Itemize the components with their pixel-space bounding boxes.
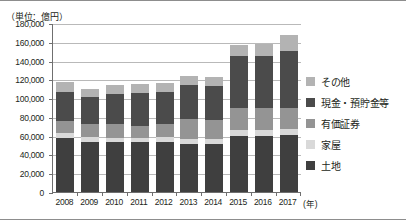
legend-swatch-icon — [306, 77, 315, 86]
bar-segment — [156, 124, 174, 137]
legend-label: 家屋 — [321, 137, 340, 152]
legend-item: 現金・預貯金等 — [306, 92, 404, 113]
y-axis-tick-label: 40,000 — [20, 150, 44, 160]
y-axis-tick-label: 140,000 — [15, 57, 44, 67]
bar-segment — [255, 136, 273, 192]
bar-segment — [106, 85, 124, 94]
x-axis-tick — [201, 192, 202, 196]
legend-label: 土地 — [321, 158, 340, 173]
bar-segment — [280, 51, 298, 107]
bar-segment — [81, 142, 99, 192]
x-axis-tick-label: 2010 — [102, 197, 127, 207]
x-axis-tick-label: 2017 — [275, 197, 300, 207]
bar-segment — [106, 142, 124, 192]
bar-segment — [255, 44, 273, 56]
bar-group — [251, 24, 276, 192]
bar-group — [177, 24, 202, 192]
bar-segment — [280, 135, 298, 192]
bar-segment — [230, 136, 248, 192]
x-axis-tick — [251, 192, 252, 196]
x-axis-tick — [152, 192, 153, 196]
y-axis-tick-label: 20,000 — [20, 169, 44, 179]
chart-frame: （単位：億円） 020,00040,00060,00080,000100,000… — [0, 0, 406, 220]
bar-segment — [156, 142, 174, 192]
x-axis-tick-label: 2011 — [126, 197, 151, 207]
x-axis-tick-label: 2013 — [176, 197, 201, 207]
y-axis-tick-label: 180,000 — [15, 19, 44, 29]
bar-group — [227, 24, 252, 192]
bar-group — [276, 24, 301, 192]
legend-item: その他 — [306, 71, 404, 92]
stacked-bar — [180, 76, 198, 192]
stacked-bar — [106, 85, 124, 192]
legend-item: 家屋 — [306, 134, 404, 155]
x-axis-tick-label: 2015 — [226, 197, 251, 207]
x-axis-tick-labels: 2008200920102011201220132014201520162017 — [52, 197, 310, 213]
bar-segment — [131, 126, 149, 138]
bar-segment — [56, 138, 74, 192]
bar-segment — [56, 121, 74, 133]
bar-segment — [205, 86, 223, 119]
bar-segment — [205, 77, 223, 86]
bar-group — [127, 24, 152, 192]
x-axis-tick — [226, 192, 227, 196]
bar-segment — [180, 119, 198, 138]
stacked-bar — [280, 35, 298, 192]
y-axis-tick-labels: 020,00040,00060,00080,000100,000120,0001… — [0, 24, 50, 193]
bar-segment — [230, 45, 248, 57]
legend-swatch-icon — [306, 161, 315, 170]
bar-segment — [56, 82, 74, 92]
chart-legend: その他現金・預貯金等有価証券家屋土地 — [306, 71, 404, 176]
y-axis-tick-label: 80,000 — [20, 113, 44, 123]
bar-segment — [280, 108, 298, 130]
stacked-bar — [56, 82, 74, 192]
bar-segment — [180, 76, 198, 86]
stacked-bar — [205, 77, 223, 192]
bar-group — [152, 24, 177, 192]
x-axis-tick — [176, 192, 177, 196]
y-axis-tick-label: 100,000 — [15, 94, 44, 104]
bar-segment — [230, 108, 248, 130]
y-axis-tick — [49, 193, 53, 194]
bar-segment — [81, 89, 99, 97]
bar-segment — [156, 83, 174, 92]
x-axis-tick-label: 2016 — [250, 197, 275, 207]
legend-swatch-icon — [306, 119, 315, 128]
stacked-bar — [131, 84, 149, 192]
x-axis-tick-label: 2012 — [151, 197, 176, 207]
legend-item: 土地 — [306, 155, 404, 176]
bar-group — [202, 24, 227, 192]
bar-segment — [205, 120, 223, 139]
bar-segment — [230, 56, 248, 108]
bar-segment — [280, 35, 298, 51]
bar-segment — [81, 124, 99, 137]
legend-label: 現金・預貯金等 — [321, 95, 389, 110]
x-axis-tick-label: 2009 — [77, 197, 102, 207]
y-axis-tick-label: 160,000 — [15, 38, 44, 48]
bar-segment — [131, 84, 149, 94]
plot-area — [52, 24, 300, 193]
bar-segment — [56, 92, 74, 121]
bar-segment — [81, 97, 99, 125]
bar-segment — [255, 56, 273, 109]
stacked-bar — [81, 89, 99, 192]
stacked-bar — [255, 44, 273, 192]
x-axis-unit-label: (年) — [303, 197, 318, 209]
bar-group — [78, 24, 103, 192]
legend-swatch-icon — [306, 98, 315, 107]
x-axis-tick — [77, 192, 78, 196]
stacked-bar — [230, 45, 248, 192]
x-axis-tick-label: 2008 — [52, 197, 77, 207]
x-axis-tick — [276, 192, 277, 196]
bar-segment — [180, 85, 198, 119]
x-axis-tick — [102, 192, 103, 196]
bar-segment — [131, 142, 149, 192]
y-axis-tick-label: 0 — [40, 188, 44, 198]
legend-item: 有価証券 — [306, 113, 404, 134]
y-axis-tick-label: 60,000 — [20, 132, 44, 142]
x-axis-tick — [300, 192, 301, 196]
y-axis-tick-label: 120,000 — [15, 75, 44, 85]
bar-segment — [131, 93, 149, 125]
legend-label: 有価証券 — [321, 116, 360, 131]
bar-segment — [205, 144, 223, 192]
